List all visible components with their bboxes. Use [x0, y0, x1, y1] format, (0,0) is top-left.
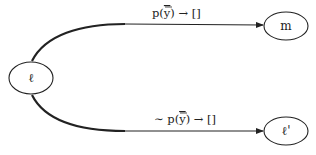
node-label-m: m	[280, 19, 292, 33]
edge-line-top	[125, 24, 263, 25]
node-label-l: ℓ	[28, 71, 34, 85]
edge-l-to-m: p(y) → []	[32, 6, 263, 61]
edge-curve-bottom	[32, 95, 125, 131]
edge-label-top: p(y) → []	[152, 6, 201, 20]
flow-diagram: p(y) → [] ∼ p(y) → [] ℓ m ℓ'	[0, 0, 316, 155]
node-l-prime: ℓ'	[264, 117, 308, 145]
node-l: ℓ	[9, 62, 53, 94]
edge-l-to-l-prime: ∼ p(y) → []	[32, 95, 263, 131]
edge-label-bottom: ∼ p(y) → []	[154, 112, 216, 126]
edge-curve-top	[32, 24, 125, 61]
node-label-l-prime: ℓ'	[281, 124, 290, 138]
node-m: m	[264, 12, 308, 40]
